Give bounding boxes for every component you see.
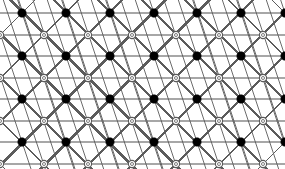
filled-node xyxy=(106,138,114,146)
filled-node xyxy=(18,95,26,103)
open-node xyxy=(128,117,135,124)
open-node xyxy=(172,117,179,124)
filled-node xyxy=(193,52,201,60)
open-node xyxy=(172,31,179,38)
filled-node xyxy=(62,95,70,103)
filled-node xyxy=(18,52,26,60)
open-node xyxy=(259,31,266,38)
filled-node xyxy=(18,9,26,17)
filled-node xyxy=(193,138,201,146)
filled-node xyxy=(62,9,70,17)
filled-node xyxy=(106,52,114,60)
filled-node xyxy=(150,95,158,103)
open-node xyxy=(215,31,222,38)
open-node xyxy=(40,160,47,167)
open-node xyxy=(128,31,135,38)
filled-node xyxy=(106,9,114,17)
filled-node xyxy=(18,138,26,146)
lattice-diagram-svg xyxy=(0,0,285,169)
open-node xyxy=(128,160,135,167)
open-node xyxy=(84,117,91,124)
open-node xyxy=(84,31,91,38)
filled-node xyxy=(193,95,201,103)
filled-node xyxy=(62,52,70,60)
filled-node xyxy=(193,9,201,17)
open-node xyxy=(259,74,266,81)
open-node xyxy=(172,160,179,167)
filled-node xyxy=(150,9,158,17)
filled-node xyxy=(237,138,245,146)
open-node xyxy=(40,31,47,38)
open-node xyxy=(84,160,91,167)
open-node xyxy=(40,74,47,81)
open-node xyxy=(84,74,91,81)
filled-node xyxy=(237,9,245,17)
open-node xyxy=(40,117,47,124)
filled-node xyxy=(106,95,114,103)
filled-node xyxy=(62,138,70,146)
open-node xyxy=(172,74,179,81)
filled-node xyxy=(237,95,245,103)
open-node xyxy=(215,74,222,81)
open-node xyxy=(128,74,135,81)
filled-node xyxy=(150,138,158,146)
open-node xyxy=(215,117,222,124)
open-node xyxy=(259,160,266,167)
filled-node xyxy=(150,52,158,60)
filled-node xyxy=(237,52,245,60)
open-node xyxy=(259,117,266,124)
open-node xyxy=(215,160,222,167)
lattice-figure xyxy=(0,0,285,169)
